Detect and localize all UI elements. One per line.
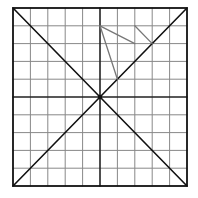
grid-diagram bbox=[0, 0, 198, 198]
center-point bbox=[98, 95, 102, 99]
